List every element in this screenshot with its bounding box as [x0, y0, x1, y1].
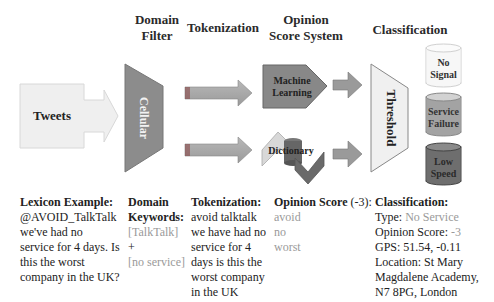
lexicon-line: service for 4 days. Is — [20, 240, 128, 255]
lexicon-line: this the worst — [20, 255, 128, 270]
tweets-label: Tweets — [33, 108, 71, 123]
no-signal-line2: Signal — [430, 69, 457, 80]
lexicon-line: company in the UK? — [20, 270, 128, 285]
token-line: in the UK — [191, 285, 281, 300]
classification-title: Classification: — [375, 195, 448, 209]
no-signal-line1: No — [437, 57, 449, 68]
token-line: avoid talktalk — [191, 210, 281, 225]
low-speed-line1: Low — [434, 156, 454, 167]
tokenization-title: Tokenization: — [191, 195, 261, 209]
location-line: N7 8PG, London — [375, 285, 494, 300]
dictionary-label: Dictionary — [268, 145, 314, 156]
domain-plus: + — [128, 240, 135, 254]
opinion-word: avoid — [274, 210, 374, 225]
token-line: worst company — [191, 270, 281, 285]
dictionary-node: Dictionary — [262, 132, 324, 184]
domain-keyword-1: [TalkTalk] — [128, 225, 178, 239]
no-signal-cylinder: No Signal — [426, 44, 461, 87]
type-value: No Service — [405, 210, 459, 224]
service-failure-line2: Failure — [428, 118, 459, 129]
location-line: Magdalene Academy, — [375, 270, 494, 285]
caption-lexicon-example: Lexicon Example: @AVOID_TalkTalk we've h… — [20, 195, 128, 285]
service-failure-cylinder: Service Failure — [426, 93, 461, 136]
machine-learning-node: Machine Learning — [263, 65, 327, 108]
opinion-word: no — [274, 225, 374, 240]
pipeline-diagram: Tweets Cellular Machine Learning Diction… — [0, 0, 494, 190]
token-line: we have had no — [191, 225, 281, 240]
opinion-score-value: (-3): — [347, 195, 371, 209]
token-line: days is this the — [191, 255, 281, 270]
low-speed-line2: Speed — [431, 168, 457, 179]
threshold-label: Threshold — [384, 90, 399, 148]
arrow-ml-to-threshold — [333, 72, 362, 98]
cellular-filter-node: Cellular — [125, 64, 163, 172]
low-speed-cylinder: Low Speed — [426, 143, 461, 185]
caption-classification: Classification: Type: No Service Opinion… — [375, 195, 494, 300]
arrow-dictionary-to-threshold — [333, 141, 362, 167]
score-label: Opinion Score: — [375, 225, 451, 239]
ml-label-line2: Learning — [272, 87, 311, 98]
gps-line: GPS: 51.54, -0.11 — [375, 240, 494, 255]
token-line: service for 4 — [191, 240, 281, 255]
ml-label-line1: Machine — [273, 75, 311, 86]
lexicon-title: Lexicon Example: — [20, 195, 113, 209]
lexicon-line: we've had no — [20, 225, 128, 240]
score-value: -3 — [451, 225, 461, 239]
location-line: Location: St Mary — [375, 255, 494, 270]
type-label: Type: — [375, 210, 405, 224]
arrow-to-dictionary — [185, 137, 252, 163]
opinion-word: worst — [274, 240, 374, 255]
caption-opinion-score: Opinion Score (-3): avoid no worst — [274, 195, 374, 255]
cellular-label: Cellular — [137, 97, 151, 140]
domain-keyword-2: [no service] — [128, 255, 188, 270]
domain-title-line1: Domain — [128, 195, 169, 209]
service-failure-line1: Service — [428, 106, 460, 117]
caption-tokenization: Tokenization: avoid talktalk we have had… — [191, 195, 281, 300]
opinion-title: Opinion Score — [274, 195, 347, 209]
arrow-to-ml — [185, 80, 252, 106]
domain-title-line2: Keywords: — [128, 210, 184, 224]
lexicon-line: @AVOID_TalkTalk — [20, 210, 128, 225]
threshold-node: Threshold — [371, 64, 408, 172]
caption-domain-keywords: Domain Keywords: [TalkTalk] + [no servic… — [128, 195, 188, 270]
tweets-node: Tweets — [20, 84, 118, 148]
